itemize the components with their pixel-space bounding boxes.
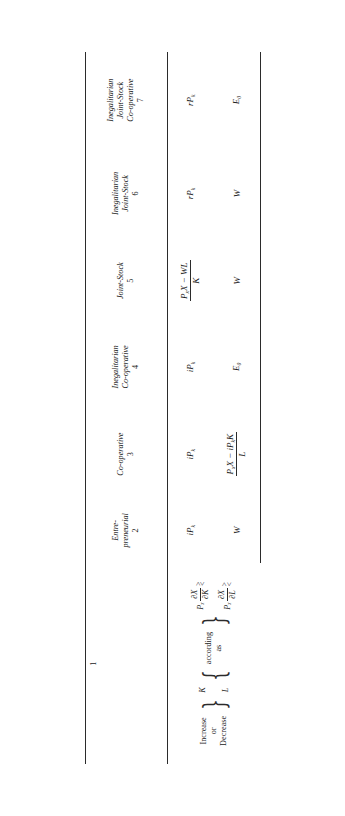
value-r3-c4: E0 [231, 363, 241, 371]
cell-r3-c5: W [213, 239, 260, 323]
value-r3-c6: W [231, 190, 241, 198]
partial-derivative-L: ∂X ∂L [217, 588, 237, 601]
cell-r2-c4: iPk [167, 323, 214, 411]
value-r2-c6: rPk [185, 188, 195, 199]
header-cell-5: Joint-Stock 5 [85, 239, 166, 323]
column-header-5: Joint-Stock [115, 262, 124, 299]
variable-L: L [220, 687, 230, 692]
partial-derivative-K: ∂X ∂K [190, 588, 210, 602]
cell-r2-c7: rPk [167, 52, 214, 148]
expression-dL: Px ∂X ∂L >< [217, 582, 237, 610]
fraction-numerator-r3-c3: PxX − iPkK [226, 432, 236, 477]
header-cell-1: 1 [85, 563, 166, 764]
header-cell-6: Inegalitarian Joint-Stock 6 [85, 148, 166, 238]
greater-less-icon-2: >< [223, 582, 231, 587]
cell-r2-c2: iPk [167, 497, 214, 563]
variable-stack: K L [197, 686, 229, 693]
expression-stack: Px ∂X ∂K >< Px ∂X [190, 582, 236, 610]
column-number-3: 3 [126, 413, 136, 495]
price-symbol-L: Px [222, 603, 232, 610]
rotated-table-wrapper: 1 Entre- preneurial 2 Co-operative 3 Ine… [85, 52, 261, 764]
table-header-row: 1 Entre- preneurial 2 Co-operative 3 Ine… [85, 52, 166, 764]
variable-K: K [197, 687, 207, 692]
value-r3-c2: W [231, 527, 241, 535]
condition-prefix-label: Increase or Decrease [198, 715, 229, 746]
column-number-1: 1 [89, 563, 99, 764]
condition-construction: Increase or Decrease } K L { according a… [168, 565, 259, 762]
column-header-7: Inegalitarian Joint-Stock Co-operative [106, 79, 134, 122]
value-r2-c2: iPk [185, 525, 195, 535]
column-number-6: 6 [130, 150, 140, 236]
cell-r3-c2: W [213, 497, 260, 563]
value-r3-c7: E0 [231, 96, 241, 104]
column-number-4: 4 [130, 325, 140, 409]
header-cell-2: Entre- preneurial 2 [85, 497, 166, 563]
column-header-6: Inegalitarian Joint-Stock [111, 172, 130, 215]
scanned-page: 1 Entre- preneurial 2 Co-operative 3 Ine… [0, 0, 345, 816]
cell-r3-c7: E0 [213, 52, 260, 148]
cell-r2-c5: PxX − WL K [167, 239, 214, 323]
expression-dK: Px ∂X ∂K >< [190, 582, 210, 610]
value-r3-c5: W [231, 277, 241, 285]
column-number-7: 7 [135, 54, 145, 146]
table-row: Increase or Decrease } K L { according a… [167, 52, 214, 764]
condition-cell: Increase or Decrease } K L { according a… [167, 563, 260, 764]
value-r2-c7: rPk [185, 94, 195, 105]
column-number-2: 2 [130, 499, 140, 561]
column-number-5: 5 [126, 241, 136, 321]
value-r3-c3: PxX − iPkK L [231, 432, 241, 477]
value-r2-c4: iPk [185, 362, 195, 372]
cell-r2-c6: rPk [167, 148, 214, 238]
column-header-2: Entre- preneurial [111, 513, 130, 547]
value-r2-c3: iPk [185, 449, 195, 459]
cell-r3-c4: E0 [213, 323, 260, 411]
header-cell-3: Co-operative 3 [85, 411, 166, 497]
header-cell-4: Inegalitarian Co-operative 4 [85, 323, 166, 411]
fraction-denominator-r2-c5: K [190, 260, 201, 301]
greater-less-icon: >< [196, 582, 204, 587]
cell-r3-c6: W [213, 148, 260, 238]
middle-brace-icon: { [203, 671, 225, 682]
right-brace-icon: } [203, 615, 225, 626]
fraction-denominator-r3-c3: L [236, 432, 247, 477]
price-symbol-K: Px [195, 603, 205, 610]
column-header-4: Inegalitarian Co-operative [111, 345, 130, 388]
condition-connector-label: according as [203, 631, 224, 665]
cell-r3-c3: PxX − iPkK L [213, 411, 260, 497]
cell-r2-c3: iPk [167, 411, 214, 497]
left-brace-icon: } [203, 699, 225, 710]
fraction-numerator-r2-c5: PxX − WL [180, 260, 190, 301]
value-r2-c5: PxX − WL K [184, 260, 194, 301]
fraction-r3-c3: PxX − iPkK L [226, 432, 247, 477]
header-cell-7: Inegalitarian Joint-Stock Co-operative 7 [85, 52, 166, 148]
comparison-table: 1 Entre- preneurial 2 Co-operative 3 Ine… [85, 52, 261, 764]
column-header-3: Co-operative [115, 433, 124, 476]
fraction-r2-c5: PxX − WL K [180, 260, 201, 301]
